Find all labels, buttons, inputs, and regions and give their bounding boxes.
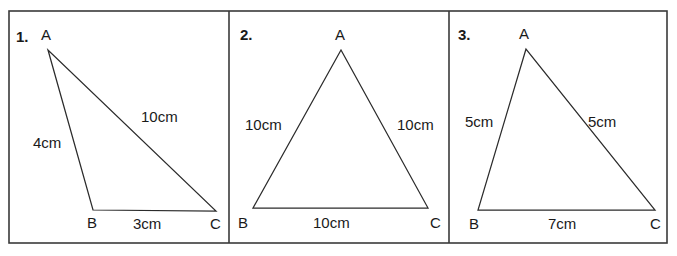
side-length-label-ab-3: 5cm <box>465 113 493 130</box>
worksheet-canvas: 1. A B C 4cm 10cm 3cm 2. A B C 10cm 10cm… <box>0 0 677 256</box>
vertex-label-c-1: C <box>210 215 221 232</box>
vertex-label-b-2: B <box>238 214 248 231</box>
vertex-label-c-2: C <box>430 214 441 231</box>
side-length-label-ab-1: 4cm <box>33 134 61 151</box>
panel-3: 3. A B C 5cm 5cm 7cm <box>458 25 661 232</box>
side-length-label-ac-1: 10cm <box>141 108 178 125</box>
panel-2: 2. A B C 10cm 10cm 10cm <box>238 26 441 231</box>
side-length-label-ac-2: 10cm <box>397 116 434 133</box>
vertex-label-c-3: C <box>650 215 661 232</box>
side-length-label-bc-3: 7cm <box>548 215 576 232</box>
side-length-label-ac-3: 5cm <box>588 113 616 130</box>
vertex-label-b-3: B <box>469 215 479 232</box>
side-length-label-ab-2: 10cm <box>245 116 282 133</box>
vertex-label-a-2: A <box>335 26 345 43</box>
vertex-label-a-1: A <box>41 26 51 43</box>
triangle-worksheet: 1. A B C 4cm 10cm 3cm 2. A B C 10cm 10cm… <box>0 0 677 256</box>
vertex-label-b-1: B <box>87 214 97 231</box>
panel-index-label-1: 1. <box>16 28 29 45</box>
triangle-shape-3 <box>478 49 655 210</box>
triangle-shape-1 <box>48 50 216 211</box>
panel-1: 1. A B C 4cm 10cm 3cm <box>16 26 221 232</box>
panel-index-label-3: 3. <box>458 26 471 43</box>
side-length-label-bc-2: 10cm <box>313 214 350 231</box>
side-length-label-bc-1: 3cm <box>133 215 161 232</box>
panel-index-label-2: 2. <box>240 26 253 43</box>
vertex-label-a-3: A <box>519 25 529 42</box>
